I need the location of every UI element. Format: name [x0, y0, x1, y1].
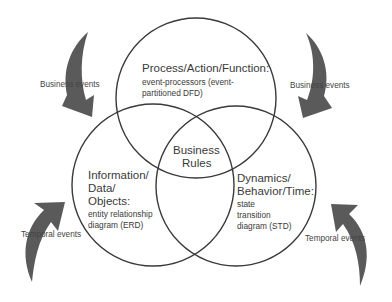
dynamics-title-line1: Dynamics/ [237, 172, 291, 185]
business-rules-line2: Rules [182, 157, 211, 170]
process-title: Process/Action/Function: [142, 62, 269, 75]
dynamics-subtitle-line2: transition [237, 210, 271, 221]
information-title-line1: Information/ [88, 169, 149, 182]
temporal-events-label-left: Temporal events [21, 230, 81, 239]
business-rules-line1: Business [173, 144, 220, 157]
temporal-events-arrow-right-icon [331, 204, 367, 286]
process-subtitle-line2: partitioned DFD) [142, 88, 203, 99]
temporal-events-arrow-left-icon [26, 202, 65, 282]
business-events-arrow-left-icon [62, 32, 94, 117]
information-title-line3: Objects: [88, 195, 130, 208]
process-subtitle-line1: event-processors (event- [142, 77, 234, 88]
dynamics-title-line2: Behavior/Time: [237, 185, 314, 198]
business-events-label-left: Business events [40, 80, 100, 89]
information-subtitle-line1: entity relationship [88, 209, 153, 220]
business-events-label-right: Business events [290, 81, 350, 90]
business-events-arrow-right-icon [298, 33, 332, 118]
temporal-events-label-right: Temporal events [305, 234, 365, 243]
dynamics-subtitle-line1: state [237, 199, 255, 210]
dynamics-subtitle-line3: diagram (STD) [237, 221, 291, 232]
information-subtitle-line2: diagram (ERD) [88, 220, 143, 231]
information-title-line2: Data/ [88, 182, 116, 195]
